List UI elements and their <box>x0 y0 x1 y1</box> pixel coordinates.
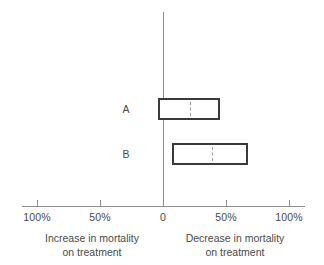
x-axis-tick-label-minus-50: 50% <box>89 211 110 223</box>
caption-increase-line2: on treatment <box>45 245 139 259</box>
box-series-a <box>158 98 220 120</box>
x-axis-tick-minus-100 <box>37 200 38 206</box>
series-label-a: A <box>122 103 129 115</box>
caption-decrease-line1: Decrease in mortality <box>186 232 285 244</box>
caption-increase-in-mortality: Increase in mortality on treatment <box>45 231 139 259</box>
caption-decrease-line2: on treatment <box>186 245 285 259</box>
x-axis-tick-plus-100 <box>289 200 290 206</box>
x-axis-tick-label-plus-50: 50% <box>215 211 236 223</box>
x-axis-tick-minus-50 <box>100 200 101 206</box>
median-line-series-a <box>190 102 192 116</box>
x-axis-tick-label-zero: 0 <box>160 211 166 223</box>
x-axis-line <box>22 206 305 207</box>
x-axis-tick-plus-50 <box>226 200 227 206</box>
series-label-b: B <box>122 148 129 160</box>
box-series-b <box>172 143 248 165</box>
x-axis-tick-label-minus-100: 100% <box>23 211 50 223</box>
mortality-box-plot-figure: 100% 50% 0 50% 100% A B Increase in mort… <box>0 0 324 265</box>
x-axis-tick-zero <box>163 200 164 206</box>
caption-increase-line1: Increase in mortality <box>45 232 139 244</box>
median-line-series-b <box>212 147 214 161</box>
x-axis-tick-label-plus-100: 100% <box>275 211 302 223</box>
caption-decrease-in-mortality: Decrease in mortality on treatment <box>186 231 285 259</box>
